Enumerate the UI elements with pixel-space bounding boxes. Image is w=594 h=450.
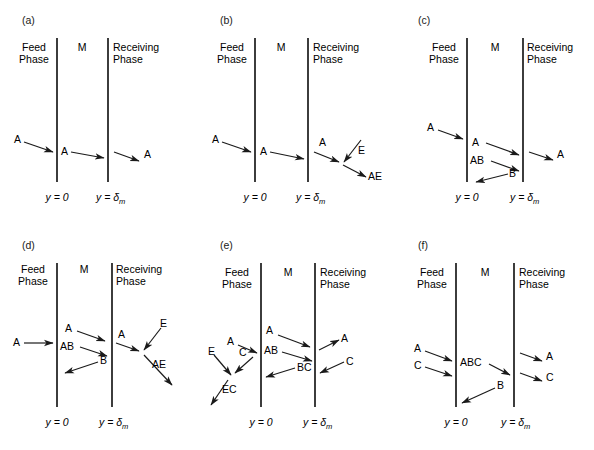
feed-phase-label-line1: Feed: [22, 41, 46, 53]
feed-phase-label-line2: Phase: [222, 278, 252, 290]
species-a-feed: A: [427, 121, 434, 133]
species-a-membrane: A: [260, 145, 267, 157]
receiving-phase-label-line1: Receiving: [527, 41, 573, 53]
species-a-feed: A: [13, 336, 20, 348]
arrow-a-to-receiving: [520, 353, 542, 361]
arrow-c-to-junction: [235, 357, 253, 373]
arrow-b-return: [462, 388, 495, 403]
axis-label-right: y = δm: [295, 191, 325, 206]
arrow-b-return: [476, 174, 508, 182]
axis-label-left: y = 0: [242, 191, 266, 203]
species-a-membrane: A: [472, 136, 479, 148]
panel-a: (a) Feed Phase M Receiving Phase A A A y…: [0, 0, 198, 225]
species-e: E: [208, 345, 215, 357]
arrow-membrane-to-receiving: [114, 152, 139, 161]
arrow-a-across: [77, 331, 105, 341]
receiving-phase-label-line2: Phase: [113, 53, 143, 65]
axis-label-left: y = 0: [44, 416, 68, 428]
species-ec: EC: [222, 383, 237, 395]
species-a-membrane: A: [65, 322, 72, 334]
species-c-feed: C: [414, 359, 422, 371]
arrow-b-return: [65, 362, 98, 373]
axis-label-right: y = δm: [302, 416, 332, 431]
panel-b: (b) Feed Phase M Receiving Phase A A A E…: [198, 0, 396, 225]
arrow-across-membrane: [71, 152, 104, 158]
arrow-across-membrane: [270, 152, 304, 159]
species-a-receiving: A: [546, 350, 553, 362]
axis-label-left: y = 0: [248, 416, 272, 428]
membrane-label: M: [491, 41, 500, 53]
feed-phase-label-line2: Phase: [18, 275, 48, 287]
feed-phase-label-line2: Phase: [417, 278, 447, 290]
species-a-feed: A: [212, 133, 219, 145]
species-a-receiving: A: [341, 332, 348, 344]
species-a-receiving: A: [557, 148, 564, 160]
feed-phase-label-line1: Feed: [420, 266, 444, 278]
species-b: B: [100, 354, 107, 366]
panel-e: (e) Feed Phase M Receiving Phase A A AB …: [198, 225, 396, 450]
membrane-transport-figure: (a) Feed Phase M Receiving Phase A A A y…: [0, 0, 594, 450]
panel-b-diagram: Feed Phase M Receiving Phase A A A E AE …: [198, 0, 396, 225]
axis-label-right: y = δm: [98, 416, 128, 431]
arrow-a-across: [486, 143, 519, 155]
receiving-phase-label-line1: Receiving: [320, 266, 366, 278]
species-a-feed: A: [227, 335, 234, 347]
species-a-receiving: A: [319, 136, 326, 148]
arrow-c-from-receiving: [320, 362, 344, 373]
arrow-e-to-junction: [214, 355, 231, 375]
panel-a-diagram: Feed Phase M Receiving Phase A A A y = 0…: [0, 0, 198, 225]
arrow-membrane-to-junction: [116, 343, 139, 351]
membrane-label: M: [277, 41, 286, 53]
axis-label-right: y = δm: [500, 416, 530, 431]
arrow-bc-return: [266, 368, 295, 377]
species-c-feed: C: [239, 346, 247, 358]
species-e: E: [358, 144, 365, 156]
arrow-c-to-membrane: [425, 367, 452, 376]
feed-phase-label-line1: Feed: [225, 266, 249, 278]
receiving-phase-label-line1: Receiving: [113, 41, 159, 53]
receiving-phase-label-line1: Receiving: [519, 266, 565, 278]
panel-c: (c) Feed Phase M Receiving Phase A A AB …: [396, 0, 594, 225]
species-e: E: [160, 317, 167, 329]
species-ae: AE: [368, 170, 382, 182]
receiving-phase-label-line2: Phase: [320, 278, 350, 290]
panel-e-diagram: Feed Phase M Receiving Phase A A AB BC A…: [198, 225, 396, 450]
arrow-feed-to-membrane: [222, 142, 251, 152]
panel-f: (f) Feed Phase M Receiving Phase A C ABC…: [396, 225, 594, 450]
arrow-a-to-membrane: [425, 351, 452, 361]
species-abc: ABC: [460, 356, 482, 368]
receiving-phase-label-line2: Phase: [313, 53, 343, 65]
panel-d: (d) Feed Phase M Receiving Phase A A AB …: [0, 225, 198, 450]
arrow-membrane-to-receiving: [314, 152, 339, 162]
receiving-phase-label-line2: Phase: [527, 53, 557, 65]
species-c-receiving: C: [346, 355, 354, 367]
membrane-label: M: [78, 41, 87, 53]
receiving-phase-label-line2: Phase: [116, 275, 146, 287]
species-c-receiving: C: [546, 371, 554, 383]
feed-phase-label-line2: Phase: [19, 53, 49, 65]
species-a-receiving: A: [144, 148, 151, 160]
axis-label-left: y = 0: [443, 416, 467, 428]
membrane-label: M: [481, 266, 490, 278]
species-a-receiving: A: [118, 328, 125, 340]
arrow-a-across: [278, 335, 310, 347]
feed-phase-label-line1: Feed: [432, 41, 456, 53]
species-a-membrane: A: [61, 145, 68, 157]
axis-label-left: y = 0: [44, 191, 68, 203]
feed-phase-label-line2: Phase: [217, 53, 247, 65]
feed-phase-label-line2: Phase: [429, 53, 459, 65]
feed-phase-label-line1: Feed: [220, 41, 244, 53]
arrow-e-to-junction: [144, 328, 161, 350]
arrow-membrane-to-receiving: [529, 152, 553, 160]
receiving-phase-label-line1: Receiving: [116, 263, 162, 275]
species-b: B: [509, 167, 516, 179]
axis-label-right: y = δm: [509, 191, 539, 206]
arrow-feed-to-membrane: [438, 130, 463, 139]
species-ab: AB: [264, 344, 278, 356]
arrow-a-to-receiving: [319, 340, 339, 350]
feed-phase-label-line1: Feed: [21, 263, 45, 275]
panel-d-diagram: Feed Phase M Receiving Phase A A AB B A …: [0, 225, 198, 450]
axis-label-right: y = δm: [95, 191, 125, 206]
species-a-feed: A: [414, 342, 421, 354]
membrane-label: M: [284, 266, 293, 278]
